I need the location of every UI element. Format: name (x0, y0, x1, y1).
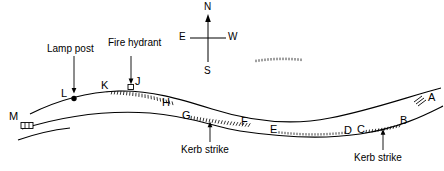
a-marker (414, 96, 426, 106)
point-label-b: B (400, 115, 407, 126)
compass-east-label: E (179, 32, 186, 42)
upper-kerb-line (30, 88, 441, 122)
detached-scrape-mark (256, 58, 301, 63)
point-label-d: D (344, 125, 352, 136)
m-marker (21, 123, 33, 129)
fire-hydrant-arrowhead (129, 79, 134, 85)
point-label-a: A (428, 92, 435, 103)
compass-south-label: S (204, 66, 211, 76)
point-label-f: F (241, 116, 248, 127)
verge-line (18, 128, 70, 140)
lower-kerb-line (22, 106, 443, 137)
point-label-g: G (182, 110, 191, 121)
kerb-strike-left-label: Kerb strike (181, 145, 229, 155)
point-label-k: K (101, 80, 108, 91)
point-label-c: C (357, 124, 365, 135)
kerb-strike-right-label: Kerb strike (354, 153, 402, 163)
point-label-l: L (61, 88, 67, 99)
lamp-post-marker (71, 96, 76, 101)
diagram-canvas: N S E W Lamp post Fire hydrant Kerb stri… (0, 0, 444, 171)
lamp-post-label: Lamp post (47, 44, 94, 54)
fire-hydrant-marker (128, 85, 134, 90)
compass-rose (190, 14, 226, 62)
point-label-h: H (162, 97, 170, 108)
lamp-post-arrowhead (72, 88, 77, 94)
point-label-e: E (270, 124, 277, 135)
compass-west-label: W (228, 32, 237, 42)
point-label-j: J (135, 76, 141, 87)
point-label-m: M (9, 111, 18, 122)
fire-hydrant-label: Fire hydrant (108, 38, 161, 48)
scrape-dots-e-d (279, 131, 345, 135)
compass-north-label: N (204, 2, 211, 12)
